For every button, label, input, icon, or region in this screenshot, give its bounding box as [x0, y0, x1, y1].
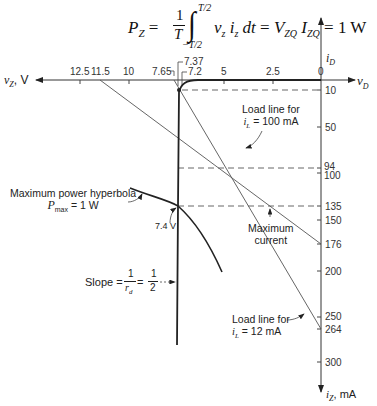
hyperbola-title: Maximum power hyperbola: [10, 187, 136, 199]
slope-rd-sub: d: [129, 288, 133, 296]
iz-unit: , mA: [334, 388, 357, 400]
h-tick-label: 10: [123, 66, 134, 77]
load100-title: Load line for: [242, 103, 300, 115]
v-tick-label: 150: [325, 215, 342, 226]
pmax-symbol: P: [47, 198, 54, 212]
id-sub: D: [329, 58, 335, 67]
h-tick-label: 2.5: [266, 66, 280, 77]
h-tick-label: 7.65: [152, 66, 171, 77]
q-point-marker: [177, 88, 181, 92]
slope-den2: 2: [150, 282, 156, 293]
load12-value: = 12 mA: [239, 325, 281, 337]
max-current-line2: current: [248, 234, 294, 246]
max-current-label: Maximum current: [248, 222, 294, 246]
vd-axis-label: vD: [357, 73, 369, 91]
slope-num2: 1: [151, 268, 157, 279]
v-tick-label: 10: [325, 85, 336, 96]
h-tick-label: 7.2: [188, 66, 202, 77]
slope-prefix: Slope =: [85, 276, 123, 288]
v74-label: 7.4 V: [155, 221, 176, 231]
bracket-72: [182, 72, 187, 80]
h-tick-label: 11.5: [91, 66, 110, 77]
pmax-value: = 1 W: [68, 199, 99, 211]
v-tick-label: 250: [325, 311, 342, 322]
max-current-line1: Maximum: [248, 222, 294, 234]
slope-eq: =: [137, 276, 143, 288]
pmax-sub: max: [55, 206, 68, 213]
v-tick-label: 100: [324, 170, 341, 181]
hyperbola-label: Maximum power hyperbola Pmax = 1 W: [10, 187, 136, 216]
vd-sub: D: [363, 82, 369, 91]
slope-num1: 1: [128, 268, 134, 279]
load-line-12-label: Load line for iL = 12 mA: [232, 313, 290, 342]
v-tick-label: 176: [325, 239, 342, 250]
vz-axis-label: vZ, V: [4, 73, 28, 89]
v-tick-label: 135: [325, 201, 342, 212]
vz-unit: , V: [14, 73, 29, 87]
h-tick-label: 0: [318, 66, 324, 77]
v-tick-label: 264: [325, 324, 342, 335]
load12-title: Load line for: [232, 313, 290, 325]
load100-value: = 100 mA: [250, 115, 298, 127]
v-tick-label: 300: [325, 357, 342, 368]
h-tick-label: 12.5: [70, 66, 89, 77]
h-tick-label: 5: [221, 66, 227, 77]
load-line-100-label: Load line for iL = 100 mA: [242, 103, 300, 132]
v-tick-label: 200: [325, 266, 342, 277]
id-axis-label: iD: [326, 51, 335, 67]
leader-load100: [246, 131, 262, 148]
v-tick-label: 50: [325, 122, 336, 133]
v-ticks: [317, 90, 321, 362]
iz-axis-label: iZ, mA: [326, 388, 356, 403]
